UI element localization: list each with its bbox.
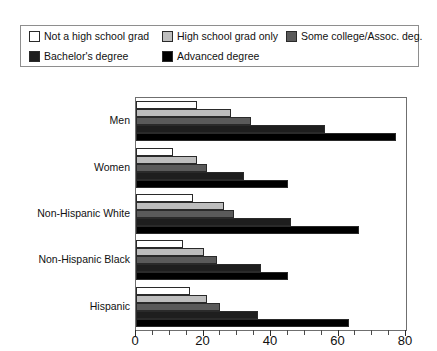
bar (136, 218, 291, 226)
bar (136, 156, 197, 164)
bar (136, 180, 288, 188)
bar (136, 256, 217, 264)
bar (136, 164, 207, 172)
bar (136, 210, 234, 218)
bar (136, 264, 261, 272)
bar (136, 194, 193, 202)
bar (136, 109, 231, 117)
legend-item-not-hs-grad: Not a high school grad (29, 26, 149, 47)
x-axis-tick-label: 20 (195, 333, 209, 348)
bar (136, 148, 173, 156)
legend-label-hs-grad-only: High school grad only (177, 31, 278, 42)
x-axis-tick-labels: 020406080 (135, 333, 406, 351)
x-axis-tick-label: 80 (398, 333, 412, 348)
bar-group: Women (136, 148, 406, 188)
category-label: Non-Hispanic Black (38, 254, 130, 264)
bar-group: Non-Hispanic White (136, 194, 406, 234)
bar (136, 248, 204, 256)
legend-item-bachelors: Bachelor's degree (29, 46, 128, 67)
legend-swatch-bachelors (29, 51, 40, 62)
legend-label-some-college: Some college/Assoc. deg. (301, 31, 422, 42)
legend-swatch-hs-grad-only (162, 31, 173, 42)
bar (136, 295, 207, 303)
bar (136, 287, 190, 295)
bar (136, 101, 197, 109)
bar (136, 172, 244, 180)
bar-group: Non-Hispanic Black (136, 240, 406, 280)
bar-group: Men (136, 101, 406, 141)
legend-item-hs-grad-only: High school grad only (162, 26, 278, 47)
chart-bars-container: MenWomenNon-Hispanic WhiteNon-Hispanic B… (136, 98, 406, 330)
bar (136, 226, 359, 234)
bar (136, 133, 396, 141)
legend-label-bachelors: Bachelor's degree (44, 51, 128, 62)
bar (136, 202, 224, 210)
bar (136, 117, 251, 125)
bar (136, 272, 288, 280)
legend-swatch-advanced (162, 51, 173, 62)
bar-group: Hispanic (136, 287, 406, 327)
legend-swatch-some-college (286, 31, 297, 42)
bar (136, 240, 183, 248)
legend-item-advanced: Advanced degree (162, 46, 259, 67)
bar (136, 311, 258, 319)
category-label: Non-Hispanic White (37, 208, 130, 218)
x-axis-tick-label: 40 (263, 333, 277, 348)
chart-legend: Not a high school grad High school grad … (20, 25, 419, 67)
chart-plot-area: MenWomenNon-Hispanic WhiteNon-Hispanic B… (135, 97, 407, 331)
bar (136, 303, 220, 311)
legend-label-not-hs-grad: Not a high school grad (44, 31, 149, 42)
category-label: Women (94, 162, 130, 172)
legend-item-some-college: Some college/Assoc. deg. (286, 26, 422, 47)
category-label: Men (110, 115, 130, 125)
category-label: Hispanic (90, 301, 130, 311)
x-axis-tick-label: 60 (330, 333, 344, 348)
legend-label-advanced: Advanced degree (177, 51, 259, 62)
legend-swatch-not-hs-grad (29, 31, 40, 42)
bar (136, 125, 325, 133)
bar (136, 319, 349, 327)
x-axis-tick-label: 0 (131, 333, 138, 348)
